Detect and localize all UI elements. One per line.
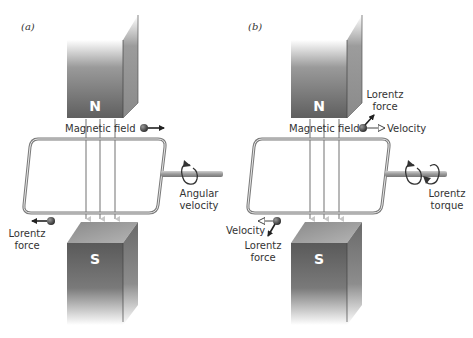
- north-pole-label: N: [89, 98, 101, 114]
- north-magnet: N: [67, 15, 138, 118]
- panel-a: (a) N S Magnetic field Lorentz force: [8, 15, 223, 325]
- magnetic-field-label: Magnetic field: [65, 123, 136, 134]
- top-velocity-label: Velocity: [387, 123, 426, 134]
- panel-b: (b) N S Magnetic field Lorentz force Vel…: [226, 15, 466, 325]
- bottom-lorentz-force-label-line1: Lorentz: [244, 240, 281, 251]
- angular-velocity-label-line2: velocity: [179, 200, 218, 211]
- field-lines: [86, 119, 115, 219]
- coil-loop: [24, 139, 165, 213]
- bottom-lorentz-force-label-line2: force: [250, 252, 275, 263]
- south-magnet-b: S: [291, 222, 362, 325]
- top-lorentz-force-label-line2: force: [372, 101, 397, 112]
- south-pole-label-b: S: [314, 251, 324, 267]
- charge-top-b-icon: [359, 115, 385, 132]
- south-pole-label: S: [90, 251, 100, 267]
- axle-b: [385, 171, 447, 177]
- axle: [161, 171, 223, 177]
- north-pole-label-b: N: [313, 98, 325, 114]
- north-magnet-b: N: [291, 15, 362, 118]
- lorentz-force-label-line1: Lorentz: [8, 228, 45, 239]
- bottom-velocity-label: Velocity: [226, 225, 265, 236]
- coil-loop-b: [248, 139, 389, 213]
- panel-a-tag: (a): [21, 21, 35, 32]
- field-lines-b: [310, 119, 339, 219]
- south-magnet: S: [67, 222, 138, 325]
- lorentz-torque-label-line1: Lorentz: [428, 188, 465, 199]
- charge-top-icon: [140, 124, 164, 132]
- lorentz-force-label-line2: force: [14, 240, 39, 251]
- angular-velocity-label-line1: Angular: [180, 188, 220, 199]
- top-lorentz-force-label-line1: Lorentz: [366, 89, 403, 100]
- figure: (a) N S Magnetic field Lorentz force: [0, 0, 473, 338]
- lorentz-torque-label-line2: torque: [431, 200, 464, 211]
- magnetic-field-label-b: Magnetic field: [289, 123, 360, 134]
- panel-b-tag: (b): [248, 21, 262, 32]
- charge-bottom-icon: [32, 217, 55, 225]
